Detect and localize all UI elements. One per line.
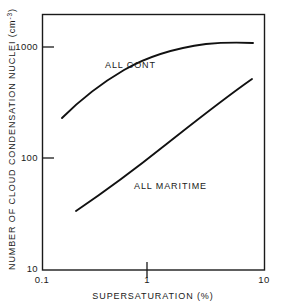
y-axis-title: NUMBER OF CLOUD CONDENSATION NUCLEI (cm-… [6,8,18,270]
x-tick-label-0.1: 0.1 [35,274,49,285]
x-tick-label-10: 10 [258,274,269,285]
x-tick-label-1: 1 [144,274,150,285]
y-tick-label-100: 100 [21,152,38,163]
y-tick-label-10: 10 [27,263,38,274]
series-label-all-cont: ALL CONT [105,60,156,70]
y-axis-title-tail: ) [7,8,17,12]
series-all-cont-curve [62,43,253,118]
y-axis-title-superscript: -3 [6,12,13,20]
y-axis-title-main: NUMBER OF CLOUD CONDENSATION NUCLEI (cm [7,20,17,270]
plot-frame [43,15,265,271]
chart-svg: ALL CONT ALL MARITIME 1000 100 10 0.1 1 … [0,0,283,307]
y-tick-label-1000: 1000 [15,41,38,52]
x-axis-title: SUPERSATURATION (%) [92,291,213,301]
ccn-supersaturation-chart: ALL CONT ALL MARITIME 1000 100 10 0.1 1 … [0,0,283,307]
axes-border [43,15,265,271]
series-label-all-maritime: ALL MARITIME [134,181,207,191]
series-all-maritime-curve [76,79,252,211]
y-axis-ticks [43,47,55,158]
